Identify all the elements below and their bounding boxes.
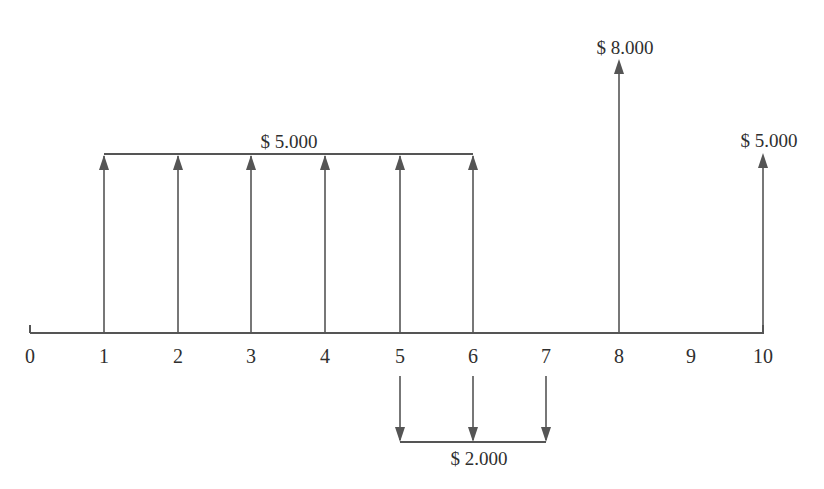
- period-label-5: 5: [395, 346, 405, 366]
- inflow-arrowheads: [99, 155, 478, 170]
- annuity-inflow-label: $ 5.000: [261, 132, 318, 151]
- period-label-4: 4: [320, 346, 330, 366]
- inflow-arrow-period-10: [758, 153, 768, 333]
- period-label-0: 0: [25, 346, 35, 366]
- timeline-axis: [30, 325, 764, 333]
- period-label-8: 8: [614, 346, 624, 366]
- inflow-arrow-period-8: [614, 59, 624, 333]
- period-label-2: 2: [173, 346, 183, 366]
- period-label-1: 1: [99, 346, 109, 366]
- period-label-7: 7: [541, 346, 551, 366]
- period-label-3: 3: [246, 346, 256, 366]
- period-label-9: 9: [686, 346, 696, 366]
- inflow-label-period-10: $ 5.000: [741, 131, 798, 150]
- cash-flow-diagram: [0, 0, 824, 489]
- period-label-6: 6: [468, 346, 478, 366]
- annuity-outflow-label: $ 2.000: [451, 449, 508, 468]
- period-label-10: 10: [753, 346, 773, 366]
- inflow-arrows-annuity: [104, 154, 473, 333]
- inflow-label-period-8: $ 8.000: [597, 38, 654, 57]
- outflow-arrowheads: [395, 427, 551, 442]
